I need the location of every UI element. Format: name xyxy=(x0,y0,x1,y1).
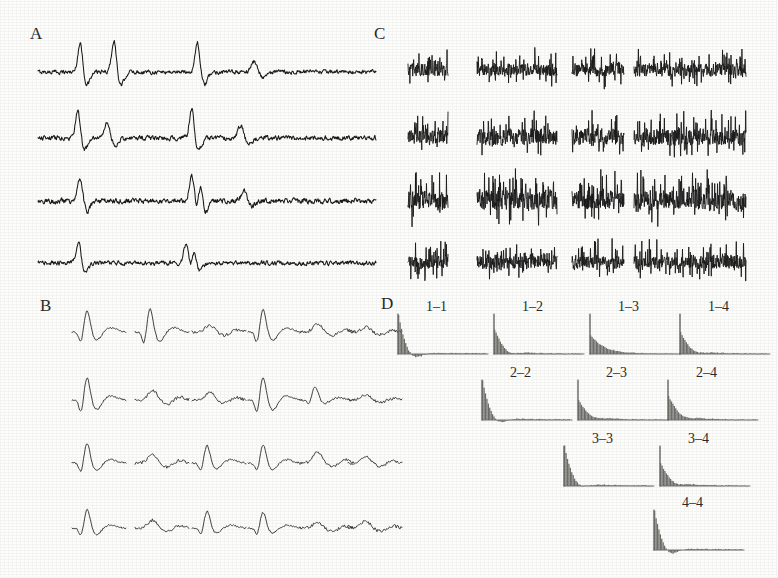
panel-b-waveform xyxy=(72,429,126,491)
panel-b-waveform xyxy=(248,494,302,556)
panel-b-waveform xyxy=(248,366,302,428)
panel-d-correlogram-label: 4–4 xyxy=(682,495,703,511)
panel-b-waveform xyxy=(192,429,246,491)
panel-b-waveform xyxy=(192,298,246,360)
panel-b-waveform xyxy=(192,494,246,556)
panel-label-c: C xyxy=(374,24,385,44)
panel-d-correlogram xyxy=(678,308,774,360)
panel-b-waveform xyxy=(248,298,302,360)
panel-c-trace-block xyxy=(408,172,448,228)
panel-c-trace-block xyxy=(572,234,624,290)
panel-b-waveform xyxy=(248,429,302,491)
panel-d-correlogram-label: 3–4 xyxy=(688,431,709,447)
panel-c-trace-block xyxy=(477,42,557,98)
panel-c-trace-block xyxy=(408,42,448,98)
panel-b-waveform xyxy=(135,298,189,360)
panel-d-correlogram xyxy=(492,308,588,360)
panel-c-trace-block xyxy=(408,109,448,165)
panel-b-waveform xyxy=(72,298,126,360)
panel-a-trace-row xyxy=(38,223,376,303)
panel-d-correlogram-label: 2–3 xyxy=(606,365,627,381)
panel-c-trace-block xyxy=(634,234,746,290)
panel-c-trace-block xyxy=(477,109,557,165)
panel-d-correlogram-label: 3–3 xyxy=(592,431,613,447)
panel-b-waveform xyxy=(348,494,402,556)
panel-b-waveform xyxy=(135,366,189,428)
panel-c-trace-block xyxy=(477,172,557,228)
panel-b-waveform xyxy=(300,494,354,556)
panel-b-waveform xyxy=(348,366,402,428)
panel-d-correlogram xyxy=(562,440,658,492)
panel-c-trace-block xyxy=(408,234,448,290)
panel-b-waveform xyxy=(135,429,189,491)
panel-c-trace-block xyxy=(572,42,624,98)
panel-d-correlogram-label: 2–2 xyxy=(510,365,531,381)
panel-d-correlogram xyxy=(658,440,754,492)
panel-d-correlogram-label: 1–3 xyxy=(618,299,639,315)
panel-b-waveform xyxy=(348,298,402,360)
panel-d-correlogram xyxy=(396,308,492,360)
panel-d-correlogram xyxy=(652,504,748,556)
panel-c-trace-block xyxy=(634,42,746,98)
panel-c-trace-block xyxy=(634,172,746,228)
panel-d-correlogram xyxy=(576,374,672,426)
panel-b-waveform xyxy=(192,366,246,428)
panel-d-correlogram-label: 2–4 xyxy=(696,365,717,381)
panel-d-correlogram-label: 1–4 xyxy=(708,299,729,315)
panel-c-trace-block xyxy=(572,172,624,228)
panel-d-correlogram-label: 1–1 xyxy=(426,299,447,315)
panel-b-waveform xyxy=(72,494,126,556)
panel-d-correlogram-label: 1–2 xyxy=(522,299,543,315)
panel-b-waveform xyxy=(72,366,126,428)
panel-d-correlogram xyxy=(480,374,576,426)
figure-canvas: A B C D 1–11–21–31–42–22–32–43–33–44–4 xyxy=(0,0,778,578)
panel-d-correlogram xyxy=(666,374,762,426)
panel-b-waveform xyxy=(300,366,354,428)
panel-b-waveform xyxy=(135,494,189,556)
panel-b-waveform xyxy=(300,298,354,360)
panel-b-waveform xyxy=(348,429,402,491)
panel-c-trace-block xyxy=(477,234,557,290)
panel-c-trace-block xyxy=(572,109,624,165)
panel-label-b: B xyxy=(40,296,51,316)
panel-d-correlogram xyxy=(588,308,684,360)
panel-b-waveform xyxy=(300,429,354,491)
panel-label-d: D xyxy=(381,294,393,314)
panel-c-trace-block xyxy=(634,109,746,165)
